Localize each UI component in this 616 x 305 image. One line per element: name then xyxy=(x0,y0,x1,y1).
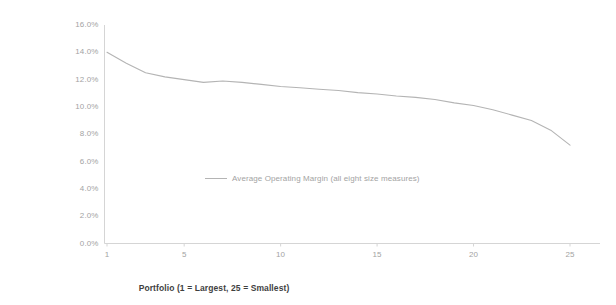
chart-legend: Average Operating Margin (all eight size… xyxy=(205,174,420,183)
legend-label: Average Operating Margin (all eight size… xyxy=(232,174,420,183)
data-series-line xyxy=(107,52,570,145)
plot-area xyxy=(0,0,616,305)
chart-container: Average Operating Margin(all eight size … xyxy=(0,0,616,305)
legend-line-swatch xyxy=(205,178,227,179)
